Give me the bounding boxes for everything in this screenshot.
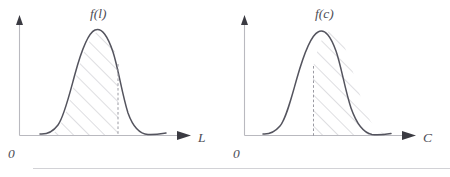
right-shaded-area (305, 24, 405, 137)
right-y-axis-arrowhead (241, 15, 248, 25)
left-curve-label: f(l) (90, 6, 107, 21)
left-origin-label: 0 (8, 146, 15, 161)
left-y-axis-arrowhead (16, 15, 23, 25)
figure-container: f(l) L 0 f(c) C 0 (0, 0, 450, 177)
left-x-axis-arrowhead (177, 131, 191, 140)
right-x-axis-label: C (423, 130, 433, 145)
right-origin-label: 0 (233, 146, 240, 161)
panel-right: f(c) C 0 (233, 6, 433, 161)
right-curve-label: f(c) (315, 6, 334, 21)
panel-left: f(l) L 0 (8, 6, 206, 161)
right-x-axis-arrowhead (402, 131, 416, 140)
left-shaded-area (40, 24, 130, 137)
left-x-axis-label: L (197, 130, 206, 145)
distribution-figure: f(l) L 0 f(c) C 0 (0, 0, 450, 177)
